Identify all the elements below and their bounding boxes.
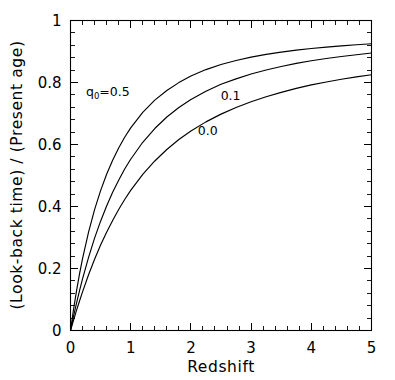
y-tick-label: 1 xyxy=(52,12,62,30)
q0-0.0-label: 0.0 xyxy=(198,123,218,138)
plot-svg: 012345 00.20.40.60.81 Redshift (Look-bac… xyxy=(0,0,395,380)
y-axis-label: (Look-back time) / (Present age) xyxy=(8,40,26,309)
figure-canvas: 012345 00.20.40.60.81 Redshift (Look-bac… xyxy=(0,0,395,380)
x-axis-label: Redshift xyxy=(187,358,255,376)
q0-0.1-label: 0.1 xyxy=(221,88,241,103)
x-tick-label: 4 xyxy=(307,339,317,357)
q0-0.5-label: q0=0.5 xyxy=(86,84,130,101)
axis-ticks xyxy=(71,21,372,331)
x-tick-labels: 012345 xyxy=(66,339,377,357)
x-tick-label: 0 xyxy=(66,339,76,357)
x-tick-label: 5 xyxy=(367,339,377,357)
x-tick-label: 1 xyxy=(126,339,136,357)
y-tick-label: 0.4 xyxy=(38,198,62,216)
y-tick-label: 0.8 xyxy=(38,74,62,92)
y-tick-label: 0 xyxy=(52,322,62,340)
plot-frame xyxy=(71,21,372,331)
y-tick-label: 0.2 xyxy=(38,260,62,278)
curve-q0-0-0 xyxy=(71,75,372,331)
y-tick-label: 0.6 xyxy=(38,136,62,154)
x-tick-label: 3 xyxy=(246,339,256,357)
curve-annotations: q0=0.50.10.0 xyxy=(86,84,241,137)
y-tick-labels: 00.20.40.60.81 xyxy=(38,12,62,340)
x-tick-label: 2 xyxy=(186,339,196,357)
